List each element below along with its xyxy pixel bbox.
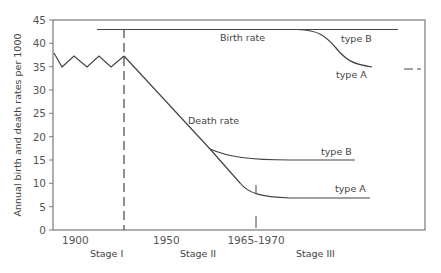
death-type-a-label: type A bbox=[335, 183, 366, 194]
y-tick-25: 25 bbox=[33, 107, 46, 119]
stage-1-label: Stage I bbox=[90, 248, 123, 259]
death-rate-label: Death rate bbox=[188, 115, 239, 126]
x-label-1900: 1900 bbox=[62, 234, 89, 246]
stage-2-label: Stage II bbox=[180, 248, 216, 259]
y-axis-tick-labels: 0 5 10 15 20 25 30 35 40 45 bbox=[33, 14, 46, 236]
y-tick-40: 40 bbox=[33, 37, 46, 49]
birth-type-a-label: type A bbox=[336, 69, 367, 80]
stage-3-label: Stage III bbox=[296, 248, 335, 259]
y-tick-10: 10 bbox=[33, 177, 46, 189]
y-tick-0: 0 bbox=[39, 224, 46, 236]
death-rate-stage-1-fluctuation bbox=[54, 53, 124, 67]
death-rate-decline-line bbox=[124, 56, 210, 149]
birth-type-b-label: type B bbox=[341, 33, 372, 44]
y-tick-5: 5 bbox=[39, 201, 46, 213]
y-tick-15: 15 bbox=[33, 154, 46, 166]
y-axis-label: Annual birth and death rates per 1000 bbox=[12, 34, 23, 217]
y-tick-45: 45 bbox=[33, 14, 46, 26]
death-type-b-label: type B bbox=[321, 146, 352, 157]
x-label-1950: 1950 bbox=[153, 234, 180, 246]
y-tick-30: 30 bbox=[33, 84, 46, 96]
y-tick-35: 35 bbox=[33, 61, 46, 73]
y-tick-20: 20 bbox=[33, 131, 46, 143]
birth-rate-label: Birth rate bbox=[220, 32, 265, 43]
demographic-transition-chart: 0 5 10 15 20 25 30 35 40 45 Annual birth… bbox=[0, 0, 441, 273]
x-label-1965-1970: 1965-1970 bbox=[227, 234, 284, 246]
